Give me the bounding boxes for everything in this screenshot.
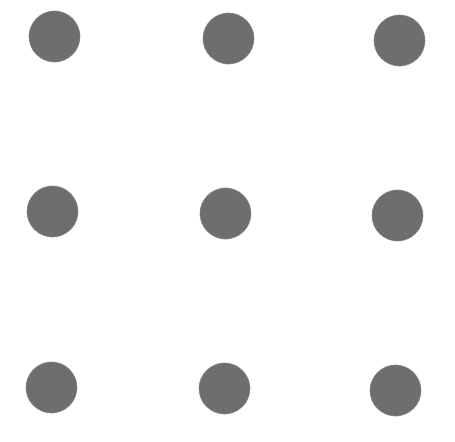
dot-r1-c2 [203,13,254,64]
dot-r2-c3 [372,190,423,241]
dot-r2-c1 [27,186,78,237]
dot-r3-c1 [26,362,77,413]
dot-grid-canvas [0,0,455,442]
dot-r3-c3 [370,365,421,416]
dot-r3-c2 [199,363,250,414]
dot-r2-c2 [200,188,251,239]
dot-r1-c1 [29,11,80,62]
dot-r1-c3 [374,15,425,66]
